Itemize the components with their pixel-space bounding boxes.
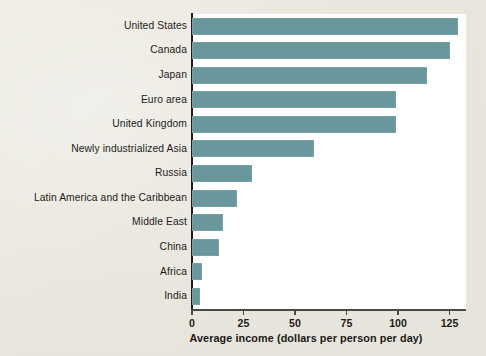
x-tick-label: 0 — [189, 317, 195, 329]
x-axis-title: Average income (dollars per person per d… — [0, 332, 486, 344]
x-tick-label: 100 — [389, 317, 407, 329]
x-tick-label: 75 — [341, 317, 353, 329]
category-label: Middle East — [0, 216, 187, 227]
x-tick-mark — [294, 309, 296, 315]
x-tick-label: 25 — [238, 317, 250, 329]
bar — [192, 42, 450, 59]
category-label: India — [0, 290, 187, 301]
bar — [192, 18, 458, 35]
x-tick-mark — [449, 309, 451, 315]
category-label: China — [0, 241, 187, 252]
bar — [192, 67, 427, 84]
chart-figure: United StatesCanadaJapanEuro areaUnited … — [0, 0, 486, 356]
bar — [192, 288, 200, 305]
category-label: United States — [0, 20, 187, 31]
bar — [192, 116, 396, 133]
x-tick-mark — [191, 309, 193, 315]
category-label: Newly industrialized Asia — [0, 143, 187, 154]
category-label: Euro area — [0, 94, 187, 105]
x-tick-mark — [397, 309, 399, 315]
bar — [192, 214, 223, 231]
category-label: Russia — [0, 167, 187, 178]
bar — [192, 140, 314, 157]
category-label: Japan — [0, 69, 187, 80]
category-label: Canada — [0, 44, 187, 55]
x-tick-label: 50 — [289, 317, 301, 329]
category-label: United Kingdom — [0, 118, 187, 129]
bar — [192, 165, 252, 182]
category-label: Latin America and the Caribbean — [0, 192, 187, 203]
bar — [192, 263, 202, 280]
bar — [192, 91, 396, 108]
x-tick-label: 125 — [441, 317, 459, 329]
bar — [192, 239, 219, 256]
bar — [192, 190, 237, 207]
x-axis-line — [191, 309, 466, 311]
x-tick-mark — [346, 309, 348, 315]
category-label: Africa — [0, 266, 187, 277]
x-tick-mark — [243, 309, 245, 315]
